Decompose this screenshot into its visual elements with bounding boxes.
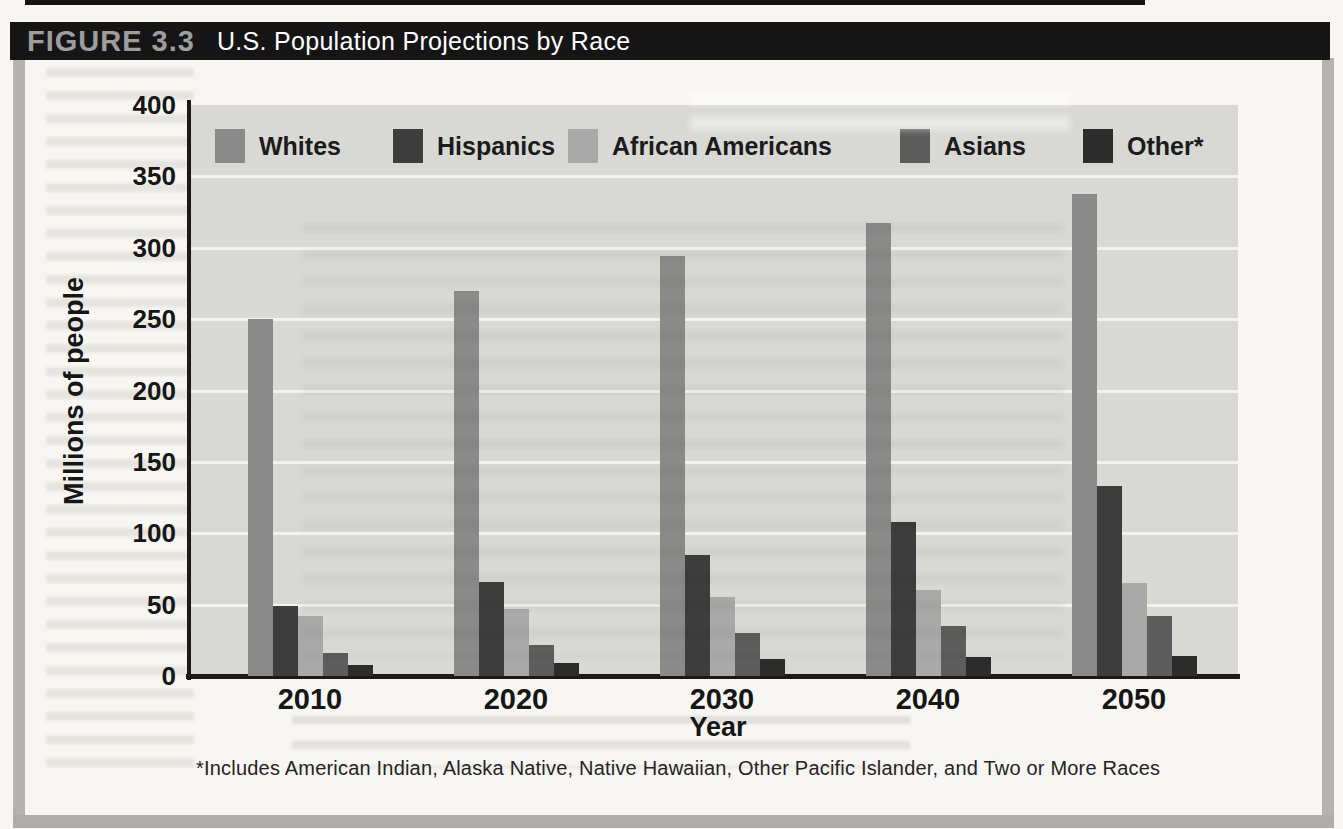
bar-hispanics-2030 (685, 555, 710, 676)
bar-african-americans-2010 (298, 616, 323, 676)
legend-item-african-americans: African Americans (568, 129, 832, 163)
bar-asians-2050 (1147, 616, 1172, 676)
bar-other-2020 (554, 663, 579, 676)
bar-asians-2030 (735, 633, 760, 676)
bar-hispanics-2010 (273, 606, 298, 676)
bar-whites-2040 (866, 223, 891, 676)
bar-whites-2020 (454, 291, 479, 676)
bar-hispanics-2050 (1097, 486, 1122, 676)
bar-african-americans-2030 (710, 597, 735, 676)
bar-other-2050 (1172, 656, 1197, 676)
legend-swatch-other (1083, 129, 1113, 163)
legend-swatch-whites (215, 129, 245, 163)
x-tick-label-2050: 2050 (1074, 683, 1194, 716)
bar-whites-2050 (1072, 194, 1097, 676)
legend-item-whites: Whites (215, 129, 341, 163)
bar-other-2030 (760, 659, 785, 676)
y-tick-label-150: 150 (88, 447, 176, 478)
bar-hispanics-2040 (891, 522, 916, 676)
bar-other-2040 (966, 657, 991, 676)
y-tick-label-200: 200 (88, 376, 176, 407)
figure-number-label: FIGURE 3.3 (27, 25, 195, 58)
y-tick-label-350: 350 (88, 161, 176, 192)
figure-title-bar: FIGURE 3.3 U.S. Population Projections b… (10, 22, 1330, 60)
x-tick-label-2010: 2010 (250, 683, 370, 716)
bar-african-americans-2040 (916, 590, 941, 676)
x-axis-title: Year (689, 712, 746, 743)
bar-hispanics-2020 (479, 582, 504, 676)
bar-asians-2020 (529, 645, 554, 676)
x-tick-label-2040: 2040 (868, 683, 988, 716)
y-tick-label-100: 100 (88, 518, 176, 549)
y-tick-label-300: 300 (88, 233, 176, 264)
bar-other-2010 (348, 665, 373, 676)
figure-title: U.S. Population Projections by Race (217, 27, 631, 56)
bar-asians-2010 (323, 653, 348, 676)
legend-label-hispanics: Hispanics (437, 132, 555, 161)
x-tick-label-2020: 2020 (456, 683, 576, 716)
legend-label-other: Other* (1127, 132, 1203, 161)
legend-swatch-hispanics (393, 129, 423, 163)
chart-plot-area: WhitesHispanicsAfrican AmericansAsiansOt… (190, 105, 1238, 676)
bar-asians-2040 (941, 626, 966, 676)
figure-frame-left-border (13, 58, 25, 828)
y-tick-label-250: 250 (88, 304, 176, 335)
figure-frame-bottom-border (13, 815, 1334, 828)
legend-label-asians: Asians (944, 132, 1026, 161)
figure-frame-right-border (1322, 58, 1334, 828)
legend-label-african-americans: African Americans (612, 132, 832, 161)
legend-label-whites: Whites (259, 132, 341, 161)
legend-item-asians: Asians (900, 129, 1026, 163)
y-axis-line (187, 100, 191, 680)
figure-footnote: *Includes American Indian, Alaska Native… (196, 757, 1160, 780)
legend-swatch-african-americans (568, 129, 598, 163)
y-tick-label-0: 0 (88, 661, 176, 692)
legend-item-other: Other* (1083, 129, 1203, 163)
y-tick-label-400: 400 (88, 90, 176, 121)
legend-swatch-asians (900, 129, 930, 163)
scanned-textbook-figure-page: FIGURE 3.3 U.S. Population Projections b… (0, 0, 1343, 829)
y-tick-label-50: 50 (88, 590, 176, 621)
page-top-edge-artifact (25, 0, 1145, 5)
gridline-350 (190, 175, 1238, 178)
bar-african-americans-2020 (504, 609, 529, 676)
bar-whites-2030 (660, 256, 685, 676)
bar-whites-2010 (248, 319, 273, 676)
legend-item-hispanics: Hispanics (393, 129, 555, 163)
bar-african-americans-2050 (1122, 583, 1147, 676)
y-axis-title: Millions of people (59, 277, 90, 505)
